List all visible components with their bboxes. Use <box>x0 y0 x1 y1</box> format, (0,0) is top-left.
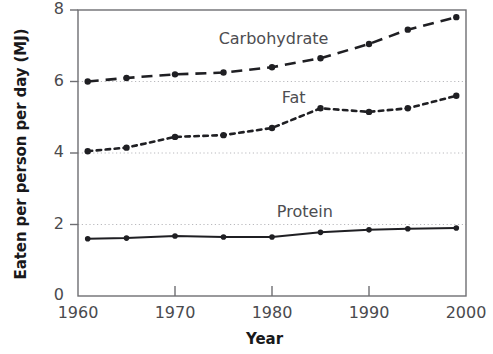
data-point-carbohydrate <box>405 26 411 32</box>
data-point-fat <box>317 105 323 111</box>
x-tick-label-2000: 2000 <box>431 303 493 322</box>
y-tick-label-8: 8 <box>30 0 64 18</box>
y-tick-label-2: 2 <box>30 214 64 233</box>
data-point-protein <box>269 234 275 240</box>
data-point-protein <box>318 230 324 236</box>
series-label-protein: Protein <box>277 202 333 221</box>
data-point-carbohydrate <box>123 75 129 81</box>
x-axis-title: Year <box>0 330 493 348</box>
series-label-fat: Fat <box>282 88 306 107</box>
data-point-carbohydrate <box>317 55 323 61</box>
y-tick-label-6: 6 <box>30 71 64 90</box>
x-tick-label-1970: 1970 <box>140 303 210 322</box>
x-tick-label-1990: 1990 <box>334 303 404 322</box>
nutrient-intake-line-chart: Eaten per person per day (MJ) Year 8 6 4… <box>0 0 493 354</box>
data-point-fat <box>366 109 372 115</box>
data-point-fat <box>85 148 91 154</box>
data-point-fat <box>453 93 459 99</box>
data-point-carbohydrate <box>366 41 372 47</box>
data-point-fat <box>220 132 226 138</box>
series-label-carbohydrate: Carbohydrate <box>219 29 329 48</box>
data-point-fat <box>405 105 411 111</box>
plot-area <box>0 0 493 354</box>
series-line-fat <box>88 96 457 151</box>
series-layer <box>85 14 460 242</box>
data-point-carbohydrate <box>269 64 275 70</box>
data-point-protein <box>405 226 411 232</box>
data-point-carbohydrate <box>453 14 459 20</box>
data-point-carbohydrate <box>172 71 178 77</box>
data-point-fat <box>172 134 178 140</box>
data-point-fat <box>123 144 129 150</box>
y-axis-title: Eaten per person per day (MJ) <box>12 4 30 304</box>
data-point-protein <box>221 234 227 240</box>
x-tick-label-1960: 1960 <box>43 303 113 322</box>
data-point-protein <box>124 235 130 241</box>
y-tick-label-4: 4 <box>30 142 64 161</box>
x-tick-label-1980: 1980 <box>237 303 307 322</box>
data-point-fat <box>269 125 275 131</box>
y-tick-label-0: 0 <box>30 285 64 304</box>
data-point-protein <box>366 227 372 233</box>
data-point-protein <box>85 236 91 242</box>
data-point-protein <box>454 225 460 231</box>
data-point-carbohydrate <box>85 78 91 84</box>
data-point-carbohydrate <box>220 69 226 75</box>
series-line-carbohydrate <box>88 17 457 81</box>
data-point-protein <box>172 233 178 239</box>
gridlines <box>78 82 466 225</box>
